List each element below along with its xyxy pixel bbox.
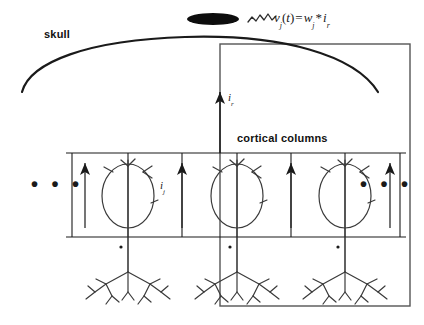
eeg-waveform-icon	[248, 14, 276, 22]
pyramidal-neuron-icon	[195, 159, 279, 304]
up-arrow-icon	[177, 163, 187, 228]
ellipsis-left: • • •	[31, 174, 83, 194]
pyramidal-neuron-icon	[86, 159, 170, 304]
figure-canvas: skull cortical columns vj(t)=wj*ir ir ij…	[0, 0, 424, 325]
equation-label: vj(t)=wj*ir	[274, 11, 330, 28]
cortical-columns-label: cortical columns	[237, 133, 328, 144]
skull-arc-icon	[22, 37, 378, 92]
column-current-label: ij	[160, 180, 165, 194]
skull-label: skull	[44, 29, 70, 40]
equation-w-subscript: j	[312, 21, 314, 30]
equation-v-subscript: j	[280, 21, 282, 30]
radial-current-subscript: r	[231, 100, 234, 108]
equation-equals: =	[294, 10, 303, 25]
radial-current-arrow	[215, 92, 225, 153]
diagram-svg	[0, 0, 424, 325]
up-arrow-icon	[286, 163, 296, 228]
column-current-subscript: j	[163, 188, 165, 196]
equation-i-subscript: r	[327, 21, 330, 30]
equation-asterisk: *	[315, 10, 324, 25]
equation-v: v	[274, 10, 280, 25]
electrode-ellipse-icon	[187, 13, 239, 25]
ellipsis-right: • • •	[360, 174, 412, 194]
radial-current-label: ir	[228, 92, 234, 106]
